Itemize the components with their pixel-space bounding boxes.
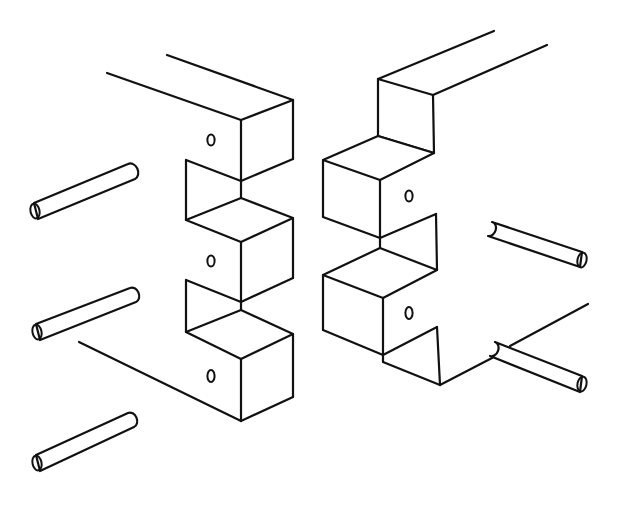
left-bottom-edge (79, 342, 241, 421)
diagram-svg (0, 0, 623, 506)
dowel-left-1 (29, 163, 138, 219)
left-piece (79, 55, 293, 421)
right-bottom-edge-back (510, 304, 588, 346)
dowel-hole-icon (207, 256, 214, 267)
dowel-left-3 (31, 413, 137, 472)
right-top-edge-front (433, 45, 547, 95)
left-top-edge-front (107, 73, 241, 120)
dowel-hole-icon (405, 191, 412, 202)
dowel-right-2 (490, 342, 588, 392)
right-finger-2 (323, 248, 437, 355)
left-top-edge-back (167, 55, 293, 100)
left-finger-1 (241, 100, 293, 181)
joint-diagram (0, 0, 623, 506)
dowel-hole-icon (207, 135, 214, 146)
right-bottom-edge (440, 358, 492, 385)
dowel-right-1 (488, 222, 588, 268)
dowel-left-2 (31, 288, 139, 341)
right-top-edge-back (378, 31, 494, 79)
dowel-hole-icon (207, 370, 214, 382)
dowel-hole-icon (405, 307, 412, 319)
right-piece (323, 31, 588, 385)
